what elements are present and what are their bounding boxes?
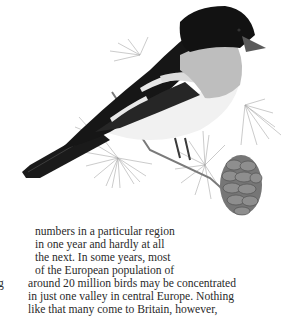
text-line: numbers in a particular region [28,225,295,238]
text-line: in one year and hardly at all [28,238,295,251]
larch-cone [220,155,262,215]
text-line: like that many come to Britain, however, [28,303,295,316]
text-line: around 20 million birds may be concentra… [28,277,295,290]
text-line: in just one valley in central Europe. No… [28,290,295,303]
body-text: numbers in a particular region in one ye… [28,225,295,316]
text-line: of the European population of [28,264,295,277]
text-line: the next. In some years, most [28,251,295,264]
bird-illustration [0,0,295,225]
bird [22,6,266,178]
margin-text-fragment: g [0,277,4,290]
